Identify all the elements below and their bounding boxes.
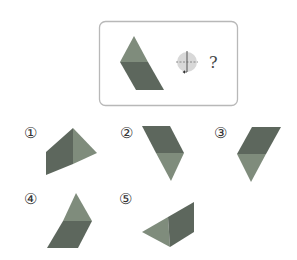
question-panel: ? (100, 22, 238, 106)
option-5-right-face (168, 202, 194, 247)
option-2[interactable]: ② (120, 124, 184, 181)
option-3-bottom-face (237, 154, 266, 182)
option-4-bottom-face (47, 221, 92, 248)
option-5-left-face (142, 217, 170, 247)
option-1-label: ① (24, 124, 37, 142)
option-4[interactable]: ④ (24, 190, 92, 248)
option-5-label: ⑤ (119, 190, 132, 208)
option-3-label: ③ (214, 124, 227, 142)
option-1-right-face (73, 128, 97, 164)
option-1-left-face (46, 128, 73, 175)
option-1[interactable]: ① (24, 124, 97, 175)
puzzle-canvas: ? ① ② ③ ④ ⑤ (0, 0, 297, 260)
option-5[interactable]: ⑤ (119, 190, 194, 247)
option-2-top-face (142, 126, 184, 153)
option-3[interactable]: ③ (214, 124, 281, 182)
option-2-label: ② (120, 124, 133, 142)
option-2-bottom-face (156, 153, 184, 181)
option-4-label: ④ (24, 190, 37, 208)
option-3-top-face (237, 127, 281, 154)
option-4-top-face (63, 193, 92, 221)
question-mark: ? (209, 53, 218, 72)
